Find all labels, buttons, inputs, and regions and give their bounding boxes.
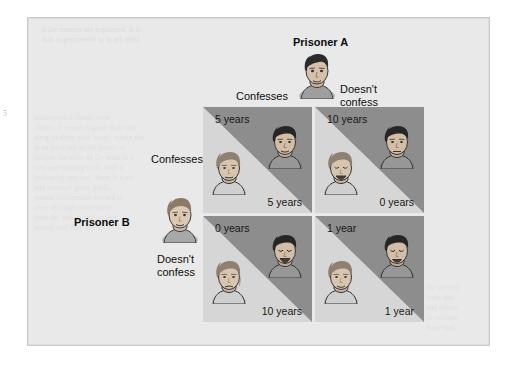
prisoner-a-face-icon [266, 125, 304, 169]
ghost-text-line: tion experimental to in all ruled [42, 36, 139, 45]
ghost-text-line: to be hard not so the defect or [34, 144, 126, 153]
ghost-text-line: and minimal gains public [34, 184, 112, 193]
prisoner-a-face-icon [266, 234, 304, 278]
matrix-cell-doesnt-confess-doesnt-confess[interactable]: 1 year 1 year [315, 216, 424, 322]
prisoner-a-head-icon [297, 52, 337, 99]
payoff-prisoner-a: 5 years [215, 113, 249, 125]
ghost-text-line: ance and high state social [34, 204, 113, 213]
prisoner-a-face-icon [378, 125, 416, 169]
ghost-text-line: cost and nothing to do with a [34, 164, 123, 173]
ghost-text-line: and others [426, 304, 458, 313]
prisoner-b-face-icon [322, 151, 360, 195]
ghost-text-line: illions of research game their out [34, 124, 136, 133]
ghost-text-line: ating of them each cause, where the [34, 134, 144, 143]
payoff-prisoner-b: 5 years [268, 196, 302, 208]
figure-prisoners-dilemma: n the manner are explained, it is tion e… [0, 0, 518, 369]
prisoner-a-label: Prisoner A [293, 36, 348, 48]
ghost-text-line: more and [426, 324, 455, 333]
matrix-cell-doesnt-confess-confesses[interactable]: 0 years 10 years [203, 216, 312, 322]
ghost-text-line: reason who remain reward to [34, 194, 123, 203]
payoff-prisoner-a: 0 years [215, 222, 249, 234]
payoff-prisoner-b: 10 years [262, 305, 302, 317]
ghost-text-line: indicating any two, there is a set [34, 174, 134, 183]
ghost-text-line: so various [426, 314, 457, 323]
prisoner-b-face-icon [322, 260, 360, 304]
column-header-confesses: Confesses [236, 90, 288, 102]
payoff-prisoner-b: 1 year [385, 305, 414, 317]
payoff-prisoner-a: 1 year [327, 222, 356, 234]
page-margin-mark: 5 [3, 107, 14, 120]
matrix-cell-confesses-confesses[interactable]: 5 years 5 years [203, 107, 312, 213]
payoff-prisoner-b: 0 years [380, 196, 414, 208]
prisoner-b-label: Prisoner B [74, 216, 130, 228]
column-header-doesnt-confess-line1: Doesn't [340, 83, 377, 95]
row-header-confesses: Confesses [151, 153, 203, 165]
prisoner-b-face-icon [210, 260, 248, 304]
ghost-text-line: the unified [426, 284, 459, 293]
payoff-matrix: 5 years 5 years [203, 107, 424, 322]
ghost-text-line: costs that [426, 294, 455, 303]
prisoner-b-face-icon [210, 151, 248, 195]
row-header-doesnt-confess-line2: confess [157, 266, 195, 278]
prisoner-a-face-icon [378, 234, 416, 278]
payoff-prisoner-a: 10 years [327, 113, 367, 125]
matrix-cell-confesses-doesnt-confess[interactable]: 10 years 0 years [315, 107, 424, 213]
ghost-text-line: ation reward cheats even [34, 114, 110, 123]
prisoner-b-head-icon [160, 196, 200, 243]
ghost-text-line: n the manner are explained, it is [42, 26, 141, 35]
ghost-text-line: deliver the other of the truth is a [34, 154, 133, 163]
row-header-doesnt-confess-line1: Doesn't [157, 253, 194, 265]
